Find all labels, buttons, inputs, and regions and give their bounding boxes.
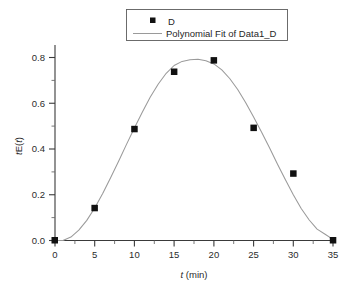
legend[interactable]: D Polynomial Fit of Data1_D bbox=[127, 10, 288, 41]
x-tick-label: 25 bbox=[248, 249, 259, 260]
data-point-marker bbox=[290, 170, 297, 177]
data-point-marker bbox=[330, 237, 337, 244]
x-tick-label: 5 bbox=[92, 249, 97, 260]
y-tick-label: 0.0 bbox=[32, 235, 45, 246]
chart-canvas: 0.0 0.2 0.4 0.6 0.8 0 5 10 15 20 25 30 3… bbox=[0, 0, 351, 291]
y-tick-label: 0.4 bbox=[32, 143, 45, 154]
y-tick-label: 0.8 bbox=[32, 52, 45, 63]
x-tick-label: 10 bbox=[129, 249, 140, 260]
x-tick-label: 15 bbox=[169, 249, 180, 260]
data-series-D bbox=[52, 57, 337, 243]
legend-entry-label: Polynomial Fit of Data1_D bbox=[166, 28, 276, 39]
x-axis-title: t (min) bbox=[181, 269, 208, 280]
y-tick-labels: 0.0 0.2 0.4 0.6 0.8 bbox=[32, 52, 45, 246]
legend-entry-label: D bbox=[168, 16, 175, 27]
data-point-marker bbox=[52, 237, 59, 244]
x-tick-labels: 0 5 10 15 20 25 30 35 bbox=[52, 249, 338, 260]
polynomial-fit-curve bbox=[55, 59, 333, 240]
x-tick-label: 30 bbox=[288, 249, 299, 260]
data-point-marker bbox=[250, 125, 257, 132]
y-major-ticks bbox=[49, 58, 55, 241]
data-point-marker bbox=[131, 126, 138, 133]
y-tick-label: 0.2 bbox=[32, 189, 45, 200]
data-point-marker bbox=[91, 205, 98, 212]
x-tick-label: 20 bbox=[209, 249, 220, 260]
legend-square-marker-icon bbox=[150, 18, 156, 24]
chart-figure: 0.0 0.2 0.4 0.6 0.8 0 5 10 15 20 25 30 3… bbox=[0, 0, 351, 291]
y-axis-title: tE(t) bbox=[13, 137, 24, 155]
x-tick-label: 35 bbox=[328, 249, 339, 260]
data-point-marker bbox=[171, 69, 178, 76]
x-tick-label: 0 bbox=[52, 249, 57, 260]
y-tick-label: 0.6 bbox=[32, 98, 45, 109]
data-point-marker bbox=[211, 57, 218, 64]
